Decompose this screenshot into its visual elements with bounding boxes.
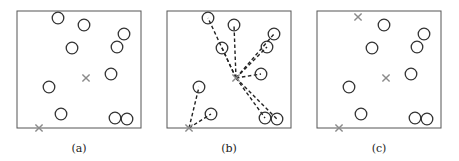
cluster-center-x-icon — [382, 74, 389, 81]
data-point-circle-icon — [109, 112, 121, 124]
data-point-circle-icon — [405, 68, 417, 80]
k-means-figure: (a)(b)(c) — [0, 0, 459, 161]
data-point-circle-icon — [111, 41, 123, 53]
data-point-circle-icon — [421, 113, 433, 125]
assignment-line — [222, 48, 236, 78]
data-point-circle-icon — [343, 81, 355, 93]
panel-a: (a) — [17, 11, 141, 155]
data-point-circle-icon — [409, 112, 421, 124]
assignment-line — [236, 78, 277, 119]
data-point-circle-icon — [418, 28, 430, 40]
cluster-center-x-icon — [82, 74, 89, 81]
data-point-circle-icon — [105, 68, 117, 80]
cluster-center-x-icon — [354, 13, 361, 20]
panel-caption: (b) — [221, 142, 237, 155]
panel-caption: (a) — [71, 142, 86, 155]
panel-caption: (c) — [372, 142, 387, 155]
data-point-circle-icon — [378, 19, 390, 31]
panel-c: (c) — [317, 11, 441, 155]
data-point-circle-icon — [355, 108, 367, 120]
assignment-line — [236, 78, 265, 118]
data-point-circle-icon — [411, 41, 423, 53]
data-point-circle-icon — [52, 12, 64, 24]
data-point-circle-icon — [66, 42, 78, 54]
data-point-circle-icon — [55, 108, 67, 120]
data-point-circle-icon — [43, 81, 55, 93]
assignment-line — [234, 25, 236, 78]
assignment-line — [236, 47, 267, 78]
data-point-circle-icon — [121, 113, 133, 125]
data-point-circle-icon — [366, 42, 378, 54]
data-point-circle-icon — [118, 28, 130, 40]
data-point-circle-icon — [78, 19, 90, 31]
panel-b: (b) — [167, 11, 291, 155]
